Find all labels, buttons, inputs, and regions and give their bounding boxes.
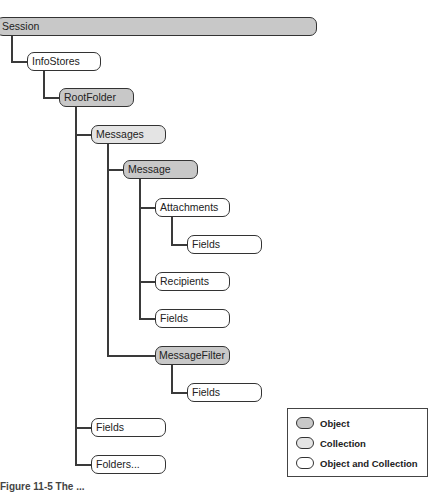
legend: Object Collection Object and Collection bbox=[287, 408, 428, 477]
figure-caption: Figure 11-5 The ... bbox=[0, 481, 84, 492]
node-messagefilter: MessageFilter bbox=[155, 346, 230, 365]
node-attachments: Attachments bbox=[155, 198, 230, 217]
node-messages: Messages bbox=[91, 125, 166, 144]
legend-item-object: Object bbox=[296, 416, 350, 430]
legend-swatch-object bbox=[296, 417, 314, 429]
legend-swatch-object-and-collection bbox=[296, 457, 314, 469]
legend-item-collection: Collection bbox=[296, 436, 366, 450]
legend-item-object-and-collection: Object and Collection bbox=[296, 456, 418, 470]
legend-label: Object bbox=[320, 418, 350, 429]
node-message: Message bbox=[123, 160, 198, 179]
node-infostores: InfoStores bbox=[27, 52, 101, 71]
node-session: Session bbox=[0, 17, 317, 36]
node-recipients: Recipients bbox=[155, 272, 230, 291]
node-messagefilter-fields: Fields bbox=[187, 383, 262, 402]
node-rootfolder-fields: Fields bbox=[91, 418, 166, 437]
legend-swatch-collection bbox=[296, 437, 314, 449]
node-folders: Folders... bbox=[91, 455, 166, 474]
node-rootfolder: RootFolder bbox=[59, 88, 134, 107]
legend-label: Object and Collection bbox=[320, 458, 418, 469]
node-attachments-fields: Fields bbox=[187, 235, 262, 254]
node-message-fields: Fields bbox=[155, 309, 230, 328]
legend-label: Collection bbox=[320, 438, 366, 449]
